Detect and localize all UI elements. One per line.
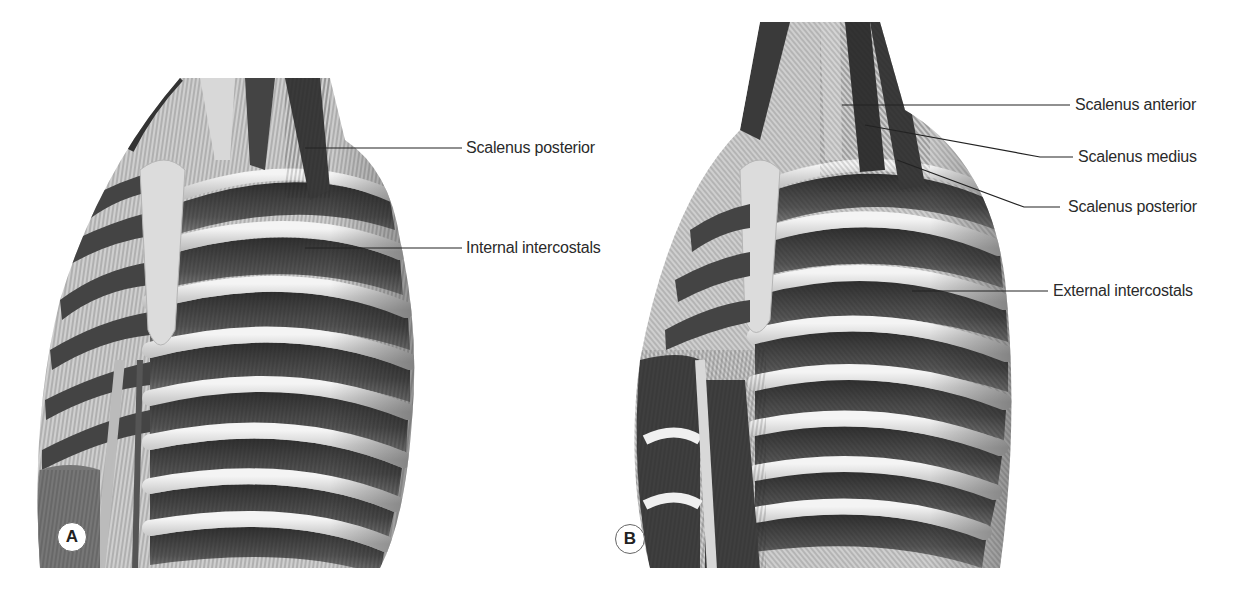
label-internal-intercostals: Internal intercostals [466, 240, 601, 256]
label-external-intercostals: External intercostals [1053, 283, 1193, 299]
panel-a: Scalenus posterior Internal intercostals… [0, 0, 629, 605]
label-scalenus-posterior-a: Scalenus posterior [466, 140, 595, 156]
label-scalenus-anterior: Scalenus anterior [1075, 97, 1196, 113]
label-scalenus-medius: Scalenus medius [1078, 149, 1197, 165]
panel-b: Scalenus anterior Scalenus medius Scalen… [629, 0, 1258, 605]
panel-badge-a: A [57, 522, 87, 552]
panel-badge-b: B [615, 524, 645, 554]
label-scalenus-posterior-b: Scalenus posterior [1068, 199, 1197, 215]
